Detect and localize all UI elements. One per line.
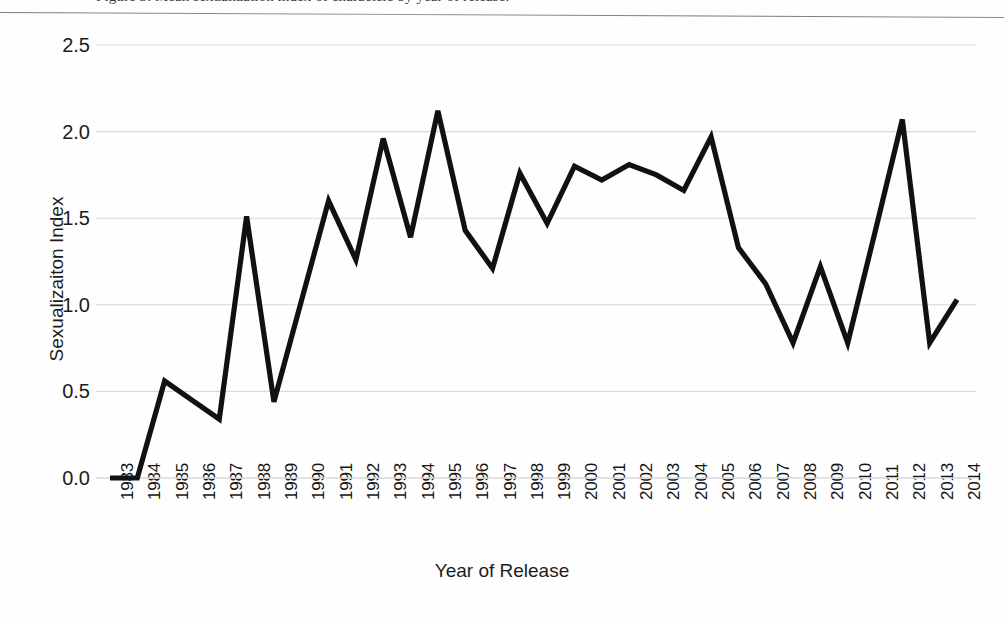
scanned-page: Figure 3. Mean sexualization index of ch… — [0, 0, 1004, 620]
data-series-line — [110, 111, 957, 478]
plot-area — [0, 0, 1004, 620]
gridlines — [96, 45, 976, 478]
line-chart: Sexualizaiton Index Year of Release 0.00… — [0, 0, 1004, 620]
